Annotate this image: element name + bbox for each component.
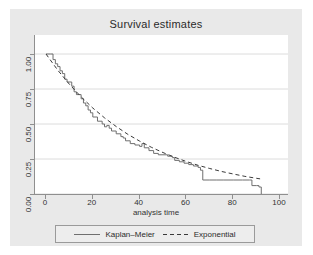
legend-key-dashed-icon (163, 231, 189, 238)
x-axis-tick-label: 80 (221, 198, 243, 207)
gridlines (35, 54, 288, 194)
legend-label-exponential: Exponential (194, 230, 236, 239)
chart-figure: Survival estimates 0.000.250.500.751.00 … (10, 9, 302, 246)
y-axis-tick-label: 0.50 (24, 123, 33, 147)
plot-area (35, 35, 288, 194)
legend-item-exponential: Exponential (163, 230, 236, 239)
x-axis-label: analysis time (10, 208, 302, 217)
x-axis-tick-label: 60 (174, 198, 196, 207)
plot-svg (35, 35, 288, 194)
chart-title: Survival estimates (10, 18, 302, 30)
legend-key-solid-icon (74, 231, 100, 238)
x-axis-line (34, 194, 288, 195)
legend-label-kaplan-meier: Kaplan–Meier (105, 230, 154, 239)
x-axis-tick-label: 0 (34, 198, 56, 207)
x-axis-tick-label: 40 (128, 198, 150, 207)
y-axis-tick-label: 0.75 (24, 88, 33, 112)
x-axis-tick-label: 20 (81, 198, 103, 207)
y-axis-line (34, 35, 35, 195)
y-axis-tick-label: 1.00 (24, 53, 33, 77)
legend-item-kaplan-meier: Kaplan–Meier (74, 230, 154, 239)
x-axis-tick-label: 100 (268, 198, 290, 207)
chart-legend: Kaplan–Meier Exponential (55, 225, 255, 243)
y-axis-tick-label: 0.25 (24, 158, 33, 182)
series-line-exponential (46, 54, 261, 179)
